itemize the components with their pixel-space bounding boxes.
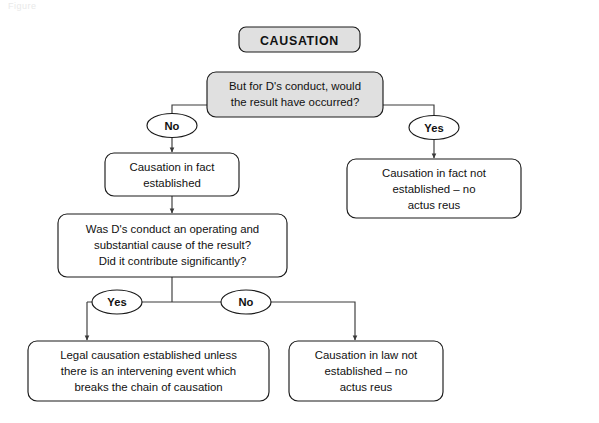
question-node-operating-line2: substantial cause of the result?: [94, 239, 251, 251]
outcome-node-fact-established-line1: Causation in fact: [130, 161, 216, 173]
outcome-node-fact-not-established: Causation in fact not established – no a…: [347, 159, 521, 218]
question-node-operating-line3: Did it contribute significantly?: [99, 255, 247, 267]
branch-label-q2-no: No: [221, 290, 271, 314]
branch-label-q1-no: No: [147, 114, 197, 138]
branch-label-q2-no-text: No: [239, 296, 254, 308]
outcome-node-legal-causation-established: Legal causation established unless there…: [28, 341, 269, 401]
outcome-node-legal-established-line1: Legal causation established unless: [60, 349, 237, 361]
branch-label-q1-yes-text: Yes: [424, 122, 443, 134]
outcome-node-legal-established-line3: breaks the chain of causation: [74, 381, 222, 393]
connector-q1-to-yes: [383, 105, 434, 116]
question-node-operating-line1: Was D's conduct an operating and: [86, 223, 259, 235]
question-node-but-for-test: But for D's conduct, would the result ha…: [207, 72, 383, 117]
outcome-node-law-not-established-line3: actus reus: [340, 381, 393, 393]
outcome-node-fact-not-established-line1: Causation in fact not: [382, 167, 487, 179]
outcome-node-fact-established-line2: established: [143, 177, 201, 189]
outcome-node-fact-established: Causation in fact established: [105, 153, 239, 196]
branch-label-q1-yes: Yes: [409, 116, 459, 140]
connector-q1-to-no: [172, 105, 207, 114]
question-node-but-for-line2: the result have occurred?: [231, 96, 360, 108]
outcome-node-legal-established-line2: there is an intervening event which: [61, 365, 236, 377]
header-node-causation: CAUSATION: [239, 27, 360, 52]
outcome-node-law-not-established: Causation in law not established – no ac…: [289, 341, 443, 401]
connector-q2-no-to-law-not-established: [272, 302, 355, 340]
question-node-operating-substantial-cause: Was D's conduct an operating and substan…: [58, 214, 287, 277]
outcome-node-law-not-established-line1: Causation in law not: [315, 349, 418, 361]
branch-label-q2-yes: Yes: [92, 290, 142, 314]
outcome-node-fact-not-established-line2: established – no: [393, 183, 476, 195]
causation-flowchart: CAUSATION But for D's conduct, would the…: [0, 0, 599, 423]
header-node-label: CAUSATION: [260, 34, 339, 48]
branch-label-q1-no-text: No: [165, 120, 180, 132]
outcome-node-law-not-established-line2: established – no: [325, 365, 408, 377]
branch-label-q2-yes-text: Yes: [107, 296, 126, 308]
outcome-node-fact-not-established-line3: actus reus: [408, 199, 461, 211]
question-node-but-for-line1: But for D's conduct, would: [229, 80, 361, 92]
